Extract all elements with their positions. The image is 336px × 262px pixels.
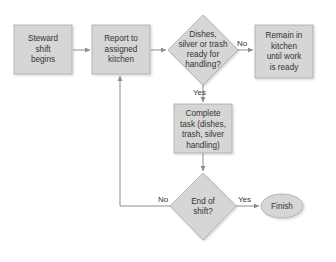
edge-label-yes-finish: Yes — [238, 195, 251, 204]
node-label-line: Report to — [104, 34, 138, 43]
decision-end-of-shift: End of shift? — [170, 173, 236, 240]
edge-label-yes-complete: Yes — [193, 88, 206, 97]
edge-endshift-report-loop — [120, 76, 170, 206]
node-label-line: until work — [267, 52, 302, 61]
edge-label-no-remain: No — [237, 39, 248, 48]
node-label-line: End of — [191, 197, 215, 206]
node-label-line: is ready — [270, 63, 300, 72]
node-complete-task: Complete task (dishes, trash, silver han… — [174, 104, 232, 153]
node-label-line: begins — [31, 55, 55, 64]
terminal-finish: Finish — [261, 194, 303, 218]
node-label-line: shift — [35, 45, 51, 54]
node-label-line: handling? — [185, 60, 221, 69]
node-label-line: Finish — [271, 202, 293, 211]
node-label-line: assigned — [105, 45, 138, 54]
node-label-line: ready for — [187, 50, 220, 59]
decision-ready-for-handling: Dishes, silver or trash ready for handli… — [168, 15, 238, 85]
node-label-line: kitchen — [271, 42, 297, 51]
node-label-line: Complete — [185, 109, 220, 118]
node-label-line: shift? — [193, 207, 213, 216]
node-label-line: Steward — [28, 34, 58, 43]
node-report-to-kitchen: Report to assigned kitchen — [92, 25, 150, 74]
node-steward-shift-begins: Steward shift begins — [14, 25, 72, 74]
node-label-line: Dishes, — [189, 30, 216, 39]
node-label-line: kitchen — [108, 55, 134, 64]
node-label-line: silver or trash — [178, 40, 228, 49]
node-label-line: handling) — [186, 141, 220, 150]
flowchart: No Yes Yes No Steward shift begins Repor… — [0, 0, 336, 262]
node-remain-in-kitchen: Remain in kitchen until work is ready — [255, 25, 313, 78]
edge-label-no-loop: No — [158, 195, 169, 204]
node-label-line: Remain in — [266, 31, 303, 40]
node-label-line: task (dishes, — [180, 120, 226, 129]
node-label-line: trash, silver — [182, 130, 224, 139]
